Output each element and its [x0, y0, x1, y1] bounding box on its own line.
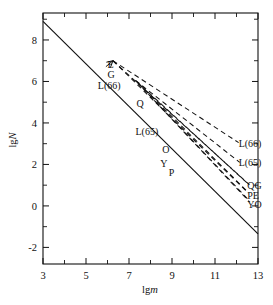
- x-axis-tick-label: 5: [83, 270, 88, 281]
- curve-label-left: P: [169, 167, 175, 178]
- x-axis-title: lgm: [142, 284, 158, 295]
- curve-label-left: E: [108, 59, 114, 70]
- curve-label-left: Q: [137, 98, 145, 109]
- x-axis-tick-label: 13: [253, 270, 264, 281]
- chart-figure: 3579111386420-2 EGL(66)QL(65)OYPL(66)L(6…: [0, 0, 273, 305]
- x-axis-tick-label: 11: [210, 270, 220, 281]
- curve-label-left: L(65): [135, 126, 158, 138]
- y-axis-title: lgN: [7, 131, 18, 147]
- x-axis-tick-label: 7: [126, 270, 131, 281]
- x-axis-tick-label: 9: [169, 270, 174, 281]
- curve-label-left: O: [162, 144, 169, 155]
- y-axis-tick-label: 2: [32, 159, 37, 170]
- y-axis-tick-label: -2: [28, 242, 37, 253]
- curve-label-left: Y: [160, 158, 167, 169]
- y-axis-tick-label: 0: [32, 201, 37, 212]
- x-axis-tick-label: 3: [40, 270, 45, 281]
- y-axis-tick-label: 6: [32, 76, 37, 87]
- lgN-vs-lgm-plot: 3579111386420-2 EGL(66)QL(65)OYPL(66)L(6…: [0, 0, 273, 305]
- y-axis-tick-label: 8: [32, 35, 37, 46]
- curve-label-left: G: [108, 69, 115, 80]
- curve-label-right: L(66): [239, 138, 262, 150]
- chart-background: [0, 0, 273, 305]
- curve-label-left: L(66): [98, 80, 121, 92]
- curve-label-right: L(65): [239, 157, 262, 169]
- curve-label-right: YO: [247, 199, 261, 210]
- y-axis-tick-label: 4: [32, 118, 38, 129]
